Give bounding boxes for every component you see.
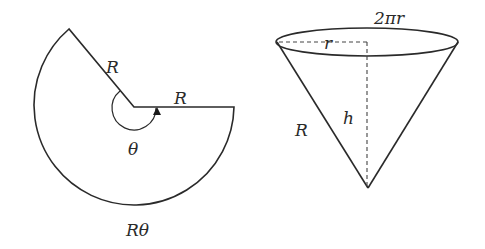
- sector-outline: [34, 29, 234, 205]
- angle-arc: [112, 91, 156, 130]
- diagram-canvas: R R θ Rθ 2πr r h R: [0, 0, 485, 249]
- sector-figure: [34, 29, 234, 205]
- sector-angle-label: θ: [128, 139, 138, 159]
- sector-arc-length-label: Rθ: [125, 220, 149, 240]
- sector-radius-label-right: R: [173, 88, 187, 108]
- cone-base-radius-label: r: [324, 33, 333, 53]
- sector-radius-label-upper: R: [105, 57, 119, 77]
- angle-arrowhead-icon: [153, 107, 161, 115]
- cone-figure: [276, 28, 458, 188]
- cone-height-label: h: [343, 108, 354, 128]
- cone-right-slant: [368, 42, 458, 188]
- cone-circumference-label: 2πr: [373, 8, 405, 28]
- cone-left-slant: [277, 42, 368, 188]
- cone-slant-label: R: [294, 120, 308, 140]
